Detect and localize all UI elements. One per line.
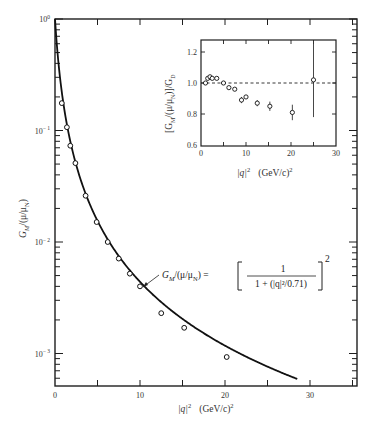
- y-tick-label: 10− 1: [35, 125, 50, 136]
- data-point: [65, 125, 70, 130]
- x-tick-label: 10: [136, 391, 144, 400]
- svg-text:GM/(μ/μN) =: GM/(μ/μN) =: [162, 270, 209, 282]
- inset-data-point: [221, 81, 225, 85]
- inset-plot: 01020300.60.81.01.2: [187, 40, 340, 158]
- inset-y-tick-label: 0.8: [187, 110, 197, 119]
- x-tick-label: 30: [306, 391, 314, 400]
- inset-x-tick-label: 20: [287, 149, 295, 158]
- inset-data-point: [233, 87, 237, 91]
- data-point: [68, 143, 73, 148]
- inset-data-point: [215, 76, 219, 80]
- data-point: [138, 284, 143, 289]
- inset-x-tick-label: 10: [242, 149, 250, 158]
- inset-x-axis-label: |q|2(GeV/c)2: [237, 166, 293, 179]
- data-point: [105, 240, 110, 245]
- data-point: [116, 256, 121, 261]
- svg-text:2: 2: [325, 254, 330, 264]
- inset-frame: [201, 40, 336, 146]
- y-tick-label: 10− 3: [35, 348, 50, 359]
- main-x-axis-label: |q|2(GeV/c)2: [178, 402, 234, 415]
- inset-y-tick-label: 1.0: [187, 79, 197, 88]
- inset-data-point: [311, 78, 315, 82]
- y-tick-label: 10− 2: [35, 237, 50, 248]
- inset-data-point: [290, 110, 294, 114]
- inset-data-point: [203, 81, 207, 85]
- formula-annotation: GM/(μ/μN) = 1 1 + (|q|²/0.71) 2: [143, 254, 330, 290]
- data-point: [159, 311, 164, 316]
- data-point: [83, 193, 88, 198]
- data-point: [73, 161, 78, 166]
- data-point: [94, 220, 99, 225]
- data-point: [224, 355, 229, 360]
- inset-y-axis-label: [GM/(μ/μN)]/GD: [164, 74, 176, 133]
- inset-y-tick-label: 0.6: [187, 141, 197, 150]
- y-tick-label: 100: [39, 14, 50, 25]
- inset-data-point: [239, 98, 243, 102]
- inset-x-tick-label: 0: [199, 149, 203, 158]
- x-tick-label: 20: [221, 391, 229, 400]
- inset-y-tick-label: 1.2: [187, 48, 197, 57]
- data-point: [182, 325, 187, 330]
- main-y-axis-label: GM/(μ/μN): [18, 199, 30, 238]
- inset-data-point: [227, 86, 231, 90]
- inset-x-tick-label: 30: [332, 149, 340, 158]
- svg-text:1 + (|q|²/0.71): 1 + (|q|²/0.71): [255, 279, 307, 290]
- data-point: [127, 271, 132, 276]
- data-point: [59, 101, 64, 106]
- inset-data-point: [244, 95, 248, 99]
- svg-text:1: 1: [281, 264, 286, 274]
- inset-data-point: [268, 104, 272, 108]
- x-tick-label: 0: [53, 391, 57, 400]
- inset-data-point: [210, 76, 214, 80]
- inset-data-point: [255, 101, 259, 105]
- form-factor-chart: 010203010010− 110− 210− 3 01020300.60.81…: [0, 0, 369, 426]
